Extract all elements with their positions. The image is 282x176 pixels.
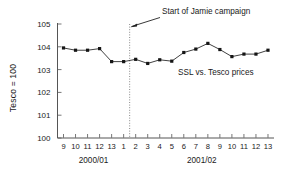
x-axis-tick-labels: 91011121312345678910111213 [61, 142, 272, 151]
x-axis-tick-label: 12 [95, 142, 103, 151]
data-point-marker [74, 49, 77, 52]
x-axis-tick-label: 12 [252, 142, 260, 151]
data-point-marker [230, 55, 233, 58]
data-point-marker [254, 52, 257, 55]
y-axis-tick-labels: 105104103102101100 [37, 20, 51, 143]
data-point-marker [206, 42, 209, 45]
x-axis-group-label: 2001/02 [187, 156, 217, 165]
x-axis-tick-marks [64, 134, 268, 138]
x-axis-tick-label: 8 [206, 142, 210, 151]
x-axis-tick-label: 13 [107, 142, 115, 151]
series-line-ssl-vs-tesco [64, 43, 268, 63]
data-point-marker [158, 58, 161, 61]
x-axis-group-label: 2000/01 [79, 156, 109, 165]
x-axis-tick-label: 1 [122, 142, 126, 151]
y-axis-tick-label: 102 [37, 88, 51, 97]
data-point-marker [266, 49, 269, 52]
data-point-marker [170, 60, 173, 63]
x-axis-tick-label: 11 [84, 142, 92, 151]
series-markers [62, 42, 270, 65]
x-axis-tick-label: 5 [170, 142, 174, 151]
y-axis-tick-label: 103 [37, 66, 51, 75]
x-axis-tick-label: 7 [194, 142, 198, 151]
data-point-marker [242, 52, 245, 55]
x-axis-tick-label: 10 [228, 142, 236, 151]
y-axis-tick-marks [58, 24, 62, 138]
x-axis-tick-label: 11 [240, 142, 248, 151]
data-point-marker [134, 58, 137, 61]
y-axis-tick-label: 100 [37, 134, 51, 143]
chart-plot: 105104103102101100 910111213123456789101… [0, 0, 282, 176]
event-annotation-arrowhead-icon [131, 23, 138, 27]
data-point-marker [218, 48, 221, 51]
data-point-marker [122, 60, 125, 63]
data-point-marker [110, 60, 113, 63]
series-annotation-text: SSL vs. Tesco prices [178, 68, 254, 77]
data-point-marker [86, 49, 89, 52]
event-annotation-text: Start of Jamie campaign [162, 7, 251, 16]
x-axis-tick-label: 4 [158, 142, 162, 151]
data-point-marker [194, 47, 197, 50]
y-axis-tick-label: 105 [37, 20, 51, 29]
x-axis-tick-label: 9 [218, 142, 222, 151]
x-axis-tick-label: 2 [134, 142, 138, 151]
chart-container: Tesco = 100 105104103102101100 910111213… [0, 0, 282, 176]
x-axis-tick-label: 3 [146, 142, 150, 151]
x-axis-tick-label: 13 [264, 142, 272, 151]
data-point-marker [62, 46, 65, 49]
data-point-marker [182, 51, 185, 54]
data-point-marker [146, 62, 149, 65]
x-axis-tick-label: 10 [71, 142, 79, 151]
x-axis-tick-label: 6 [182, 142, 186, 151]
x-axis-tick-label: 9 [61, 142, 65, 151]
data-point-marker [98, 47, 101, 50]
y-axis-tick-label: 101 [37, 111, 51, 120]
x-axis-group-labels: 2000/012001/02 [79, 156, 217, 165]
y-axis-tick-label: 104 [37, 43, 51, 52]
